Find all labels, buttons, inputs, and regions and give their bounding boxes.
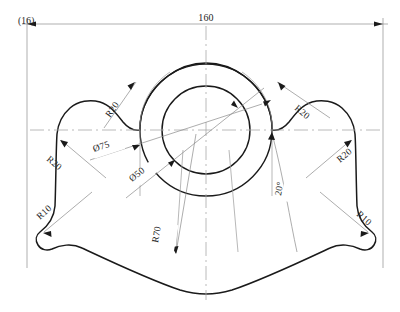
r70-text: R70 bbox=[150, 225, 163, 243]
angle20-group: 20° bbox=[268, 132, 298, 252]
r20-mid-left-arrow bbox=[60, 140, 68, 148]
construction-arc-left-dome bbox=[140, 72, 170, 130]
centerline-group bbox=[30, 26, 382, 300]
r20-mid-right-arrow bbox=[344, 140, 352, 148]
cad-drawing-svg: (16) 160 R20 R20 R20 R20 bbox=[0, 0, 400, 312]
corner-label-group: (16) bbox=[18, 16, 35, 27]
dia75-arrow-left bbox=[132, 145, 140, 151]
r20-upper-right-arrow bbox=[278, 82, 286, 91]
construction-line-r70-right bbox=[229, 150, 238, 252]
r20-upper-right-text: R20 bbox=[293, 103, 312, 121]
technical-drawing-canvas: (16) 160 R20 R20 R20 R20 bbox=[0, 0, 400, 312]
r20-mid-left-text: R20 bbox=[45, 154, 64, 172]
dia50-arrow-left bbox=[168, 160, 175, 167]
r20-upper-left-arrow bbox=[128, 82, 136, 90]
dia50-group: Ø50 bbox=[126, 88, 264, 198]
angle20-arrow bbox=[268, 132, 275, 140]
width-label-text: 160 bbox=[198, 12, 214, 23]
dia50-leader bbox=[126, 88, 264, 198]
dia50-arrow-right bbox=[231, 101, 238, 109]
r20-upper-left-group: R20 bbox=[103, 82, 136, 128]
corner-label-text: (16) bbox=[18, 16, 35, 27]
r70-leader bbox=[176, 134, 196, 253]
dimension-arrow-right bbox=[374, 22, 383, 27]
r20-mid-right-text: R20 bbox=[335, 146, 354, 164]
r20-mid-right-group: R20 bbox=[306, 140, 354, 178]
width-label-group: 160 bbox=[190, 10, 224, 23]
r10-lower-right-group: R10 bbox=[320, 192, 374, 237]
r20-upper-right-group: R20 bbox=[277, 82, 330, 121]
top-dimension-group bbox=[22, 18, 388, 268]
